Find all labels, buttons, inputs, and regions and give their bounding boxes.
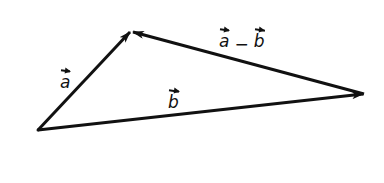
vector-a-symbol: a [60, 68, 70, 91]
vector-a-symbol-diff: a [219, 27, 229, 50]
minus-operator: − [234, 34, 248, 54]
vector-a-arrow [38, 32, 130, 130]
label-vector-a-minus-b: a−b [219, 27, 264, 50]
label-vector-b: b [168, 88, 179, 111]
vector-b-arrow [38, 94, 363, 130]
vector-b-symbol-diff: b [254, 27, 265, 50]
origin-point [37, 129, 40, 132]
vector-diagram [0, 0, 384, 183]
vector-b-symbol: b [168, 88, 179, 111]
label-vector-a: a [60, 68, 70, 91]
